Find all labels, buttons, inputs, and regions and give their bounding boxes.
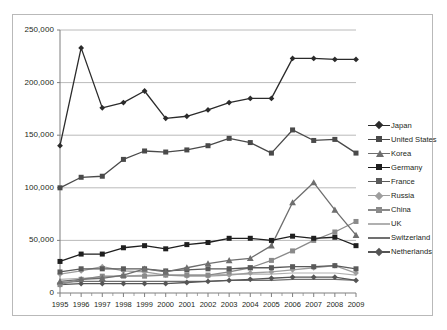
data-point	[226, 277, 232, 283]
data-point	[184, 242, 189, 247]
data-point	[163, 150, 168, 155]
legend-item-france[interactable]: France	[368, 174, 444, 188]
data-point	[227, 266, 232, 271]
data-point	[332, 229, 337, 234]
data-point	[206, 273, 211, 278]
data-point	[121, 100, 127, 106]
legend-item-switzerland[interactable]: Switzerland	[368, 231, 444, 245]
chart-container: 050,000100,000150,000200,000250,000 1995…	[0, 0, 447, 330]
data-point	[206, 143, 211, 148]
y-axis-tick-label: 100,000	[8, 183, 54, 192]
legend-item-korea[interactable]: Korea	[368, 146, 444, 160]
data-point	[247, 276, 253, 282]
legend-label: France	[390, 177, 415, 186]
legend-item-netherlands[interactable]: Netherlands	[368, 245, 444, 259]
data-point	[290, 234, 295, 239]
data-point	[57, 143, 63, 149]
data-point	[290, 56, 296, 62]
legend-item-russia[interactable]: Russia	[368, 188, 444, 202]
legend-marker-icon	[368, 175, 390, 187]
data-point	[354, 219, 359, 224]
y-axis-tick-label: 150,000	[8, 130, 54, 139]
data-point	[184, 147, 189, 152]
data-point	[79, 175, 84, 180]
data-point	[184, 273, 189, 278]
data-point	[163, 246, 168, 251]
data-point	[311, 138, 316, 143]
data-point	[121, 266, 126, 271]
data-point	[205, 107, 211, 113]
legend-label: Korea	[390, 149, 411, 158]
data-point	[205, 279, 211, 285]
legend-marker-icon	[368, 161, 390, 173]
data-point	[354, 151, 359, 156]
data-point	[142, 148, 147, 153]
legend-label: United States	[390, 135, 437, 144]
data-point	[290, 127, 295, 132]
legend-label: China	[390, 205, 411, 214]
legend-item-uk[interactable]: UK	[368, 217, 444, 231]
data-point	[100, 266, 105, 271]
data-point	[58, 259, 63, 264]
y-axis-tick-label: 50,000	[8, 235, 54, 244]
data-point	[121, 245, 126, 250]
data-point	[268, 242, 275, 248]
data-point	[248, 236, 253, 241]
data-point	[353, 57, 359, 63]
legend-label: Germany	[390, 163, 422, 172]
legend-marker-icon	[368, 119, 390, 131]
y-axis-tick-label: 0	[8, 288, 54, 297]
data-point	[290, 264, 295, 269]
legend-label: Russia	[390, 191, 414, 200]
legend-label: Switzerland	[390, 233, 430, 242]
data-point	[227, 136, 232, 141]
data-point	[248, 265, 253, 270]
data-point	[311, 236, 316, 241]
data-point	[184, 280, 190, 286]
data-point	[310, 179, 317, 185]
data-point	[247, 270, 253, 276]
data-point	[269, 238, 274, 243]
data-point	[332, 57, 338, 63]
legend-label: Netherlands	[390, 247, 432, 256]
legend-label: Japan	[390, 121, 412, 130]
data-point	[269, 151, 274, 156]
legend-marker-icon	[368, 204, 390, 216]
chart-legend: JapanUnited StatesKoreaGermanyFranceRuss…	[368, 118, 444, 259]
data-point	[332, 263, 337, 268]
series-japan	[57, 45, 359, 149]
data-point	[269, 265, 274, 270]
data-point	[58, 269, 63, 274]
data-point	[100, 174, 105, 179]
legend-label: UK	[390, 219, 402, 228]
data-point	[269, 258, 274, 263]
data-point	[248, 140, 253, 145]
data-point	[247, 95, 253, 101]
legend-marker-icon	[368, 147, 390, 159]
legend-item-japan[interactable]: Japan	[368, 118, 444, 132]
data-point	[354, 266, 359, 271]
legend-marker-icon	[368, 232, 390, 244]
data-point	[353, 277, 359, 283]
legend-marker-icon	[368, 133, 390, 145]
data-point	[311, 264, 316, 269]
legend-marker-icon	[368, 190, 390, 202]
data-point	[121, 157, 126, 162]
series-germany	[58, 234, 359, 264]
data-point	[142, 243, 147, 248]
data-point	[227, 236, 232, 241]
data-point	[226, 100, 232, 106]
legend-item-germany[interactable]: Germany	[368, 160, 444, 174]
data-point	[269, 95, 275, 101]
data-point	[184, 113, 190, 119]
legend-marker-icon	[368, 246, 390, 258]
data-point	[142, 274, 147, 279]
data-point	[58, 185, 63, 190]
data-point	[206, 240, 211, 245]
legend-item-united-states[interactable]: United States	[368, 132, 444, 146]
legend-item-china[interactable]: China	[368, 203, 444, 217]
x-axis-tick-label: 2009	[344, 300, 368, 309]
data-point	[78, 45, 84, 51]
data-point	[99, 105, 105, 111]
data-point	[79, 266, 84, 271]
